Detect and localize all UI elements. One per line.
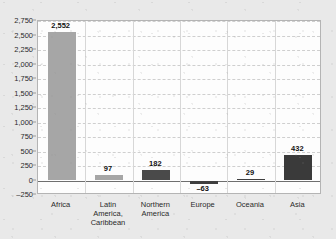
y-axis-tick-label: 250	[0, 161, 33, 170]
bar-value-label: 29	[226, 168, 273, 177]
gridline	[38, 94, 320, 95]
y-axis-tick-label: 1,750	[0, 74, 33, 83]
y-axis-tick-label: –250	[0, 190, 33, 199]
y-axis-tick-mark	[32, 136, 36, 137]
gridline	[38, 137, 320, 138]
bar-value-label: –63	[179, 184, 226, 193]
bar[interactable]	[237, 179, 265, 181]
y-axis-tick-mark	[32, 165, 36, 166]
x-axis-category-label-line: Caribbean	[84, 218, 131, 227]
gridline	[38, 79, 320, 80]
x-axis-category-label: Asia	[274, 200, 321, 209]
gridline	[38, 50, 320, 51]
y-axis-tick-mark	[32, 150, 36, 151]
y-axis-tick-label: 750	[0, 132, 33, 141]
gridline	[38, 123, 320, 124]
y-axis-tick-label: 2,500	[0, 30, 33, 39]
y-axis-tick-label: 0	[0, 175, 33, 184]
x-axis-category-label-line: America	[132, 209, 179, 218]
y-axis-tick-mark	[32, 121, 36, 122]
bar-value-label: 97	[84, 164, 131, 173]
plot-area	[37, 20, 321, 194]
y-axis-tick-mark	[32, 49, 36, 50]
x-axis-category-label: Oceania	[226, 200, 273, 209]
x-axis-category-label: Africa	[37, 200, 84, 209]
y-axis-tick-label: 500	[0, 146, 33, 155]
y-axis-tick-mark	[32, 194, 36, 195]
y-axis-tick-label: 1,000	[0, 117, 33, 126]
bar-value-label: 182	[132, 159, 179, 168]
y-axis-tick-label: 1,250	[0, 103, 33, 112]
x-axis-category-label-line: Asia	[274, 200, 321, 209]
y-axis-tick-label: 2,750	[0, 16, 33, 25]
bar[interactable]	[284, 155, 312, 180]
bar-chart-figure: 2,7502,5002,2502,0001,7501,5001,2501,000…	[0, 0, 336, 239]
gridline	[38, 36, 320, 37]
x-axis-category-label: NorthernAmerica	[132, 200, 179, 218]
y-axis-tick-mark	[32, 20, 36, 21]
gridline	[38, 166, 320, 167]
y-axis-tick-mark	[32, 34, 36, 35]
x-axis-category-label-line: Latin America,	[84, 200, 131, 218]
y-axis-tick-label: 2,000	[0, 59, 33, 68]
bar[interactable]	[142, 170, 170, 181]
y-axis-tick-mark	[32, 78, 36, 79]
zero-line	[38, 181, 320, 182]
y-axis-tick-label: 1,500	[0, 88, 33, 97]
x-axis-category-label-line: Oceania	[226, 200, 273, 209]
gridline	[38, 108, 320, 109]
x-axis-category-label-line: Africa	[37, 200, 84, 209]
category-separator	[275, 21, 276, 193]
x-axis-category-label-line: Northern	[132, 200, 179, 209]
bar[interactable]	[48, 32, 76, 180]
gridline	[38, 65, 320, 66]
y-axis-tick-label: 2,250	[0, 45, 33, 54]
y-axis-tick-mark	[32, 179, 36, 180]
x-axis-category-label: Europe	[179, 200, 226, 209]
plot-inner	[38, 21, 320, 193]
y-axis-tick-mark	[32, 107, 36, 108]
y-axis-tick-mark	[32, 63, 36, 64]
y-axis-tick-mark	[32, 92, 36, 93]
x-axis-category-label: Latin America,Caribbean	[84, 200, 131, 227]
bar-value-label: 2,552	[37, 21, 84, 30]
bar-value-label: 432	[274, 144, 321, 153]
x-axis-category-label-line: Europe	[179, 200, 226, 209]
category-separator	[180, 21, 181, 193]
bar[interactable]	[95, 175, 123, 181]
